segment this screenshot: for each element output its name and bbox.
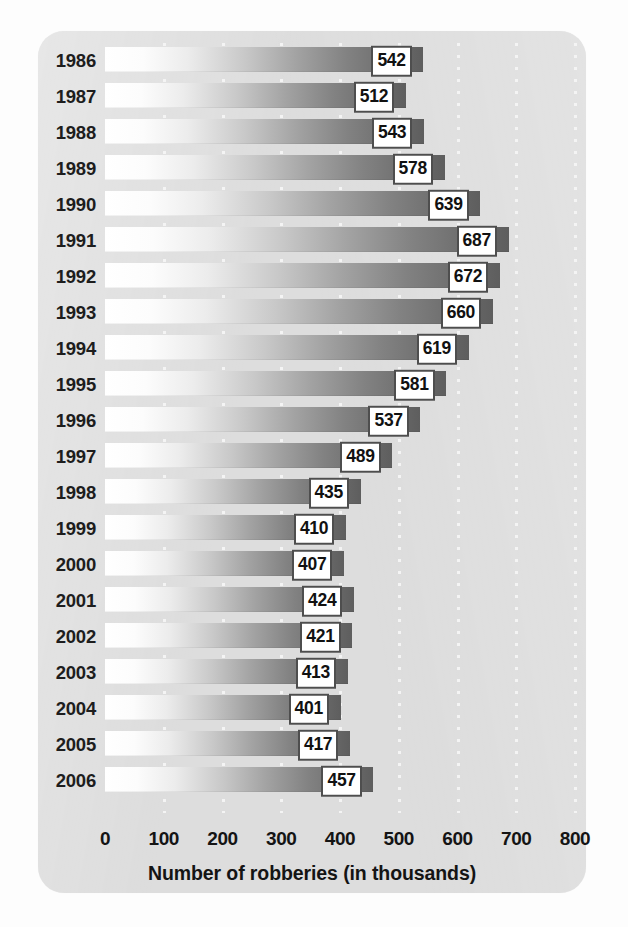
value-label-1990: 639 [428, 190, 468, 221]
robbery-bar-chart-figure: 1986542198751219885431989578199063919916… [0, 0, 628, 927]
value-label-2002: 421 [300, 622, 340, 653]
value-label-2003: 413 [296, 658, 336, 689]
year-label-2002: 2002 [56, 626, 96, 648]
year-label-2001: 2001 [56, 590, 96, 612]
year-label-1999: 1999 [56, 518, 96, 540]
year-label-2005: 2005 [56, 734, 96, 756]
value-label-1998: 435 [309, 478, 349, 509]
bar-row[interactable]: 1988543 [105, 115, 575, 151]
bar-row[interactable]: 2002421 [105, 619, 575, 655]
bar-1990[interactable] [105, 191, 480, 216]
value-label-1991: 687 [457, 226, 497, 257]
value-label-1989: 578 [393, 154, 433, 185]
bar-row[interactable]: 1992672 [105, 259, 575, 295]
value-label-1993: 660 [441, 298, 481, 329]
value-label-1987: 512 [354, 82, 394, 113]
x-tick-400: 400 [325, 828, 356, 850]
year-label-2004: 2004 [56, 698, 96, 720]
value-label-2004: 401 [289, 694, 329, 725]
value-label-2006: 457 [321, 766, 361, 797]
bar-row[interactable]: 1993660 [105, 295, 575, 331]
x-tick-300: 300 [266, 828, 297, 850]
bar-row[interactable]: 2003413 [105, 655, 575, 691]
bar-row[interactable]: 1995581 [105, 367, 575, 403]
value-label-2005: 417 [298, 730, 338, 761]
x-tick-500: 500 [383, 828, 414, 850]
bar-row[interactable]: 2005417 [105, 727, 575, 763]
year-label-2003: 2003 [56, 662, 96, 684]
year-label-1986: 1986 [56, 50, 96, 72]
value-label-2001: 424 [302, 586, 342, 617]
x-tick-800: 800 [560, 828, 591, 850]
value-label-1996: 537 [368, 406, 408, 437]
year-label-1994: 1994 [56, 338, 96, 360]
year-label-1996: 1996 [56, 410, 96, 432]
value-label-1999: 410 [294, 514, 334, 545]
bar-1991[interactable] [105, 227, 509, 252]
year-label-1991: 1991 [56, 230, 96, 252]
x-tick-0: 0 [100, 828, 110, 850]
bar-1994[interactable] [105, 335, 469, 360]
year-label-2000: 2000 [56, 554, 96, 576]
bar-row[interactable]: 1989578 [105, 151, 575, 187]
x-tick-700: 700 [501, 828, 532, 850]
x-tick-200: 200 [207, 828, 238, 850]
x-tick-100: 100 [148, 828, 179, 850]
bar-1993[interactable] [105, 299, 493, 324]
year-label-1987: 1987 [56, 86, 96, 108]
x-axis-label: Number of robberies (in thousands) [38, 862, 586, 885]
year-label-1993: 1993 [56, 302, 96, 324]
bar-row[interactable]: 1998435 [105, 475, 575, 511]
bar-row[interactable]: 1996537 [105, 403, 575, 439]
bar-row[interactable]: 1987512 [105, 79, 575, 115]
value-label-1997: 489 [340, 442, 380, 473]
x-tick-600: 600 [442, 828, 473, 850]
bar-row[interactable]: 1986542 [105, 43, 575, 79]
bar-row[interactable]: 1994619 [105, 331, 575, 367]
plot-area: 1986542198751219885431989578199063919916… [105, 43, 575, 813]
bar-row[interactable]: 2004401 [105, 691, 575, 727]
bar-row[interactable]: 2001424 [105, 583, 575, 619]
bar-row[interactable]: 1990639 [105, 187, 575, 223]
value-label-1995: 581 [394, 370, 434, 401]
value-label-1992: 672 [448, 262, 488, 293]
value-label-2000: 407 [292, 550, 332, 581]
value-label-1986: 542 [371, 46, 411, 77]
bar-row[interactable]: 1999410 [105, 511, 575, 547]
bar-row[interactable]: 1991687 [105, 223, 575, 259]
year-label-1992: 1992 [56, 266, 96, 288]
year-label-1997: 1997 [56, 446, 96, 468]
year-label-1998: 1998 [56, 482, 96, 504]
value-label-1988: 543 [372, 118, 412, 149]
year-label-1988: 1988 [56, 122, 96, 144]
bar-row[interactable]: 2000407 [105, 547, 575, 583]
year-label-1990: 1990 [56, 194, 96, 216]
bar-rows-group: 1986542198751219885431989578199063919916… [105, 43, 575, 799]
year-label-2006: 2006 [56, 770, 96, 792]
value-label-1994: 619 [417, 334, 457, 365]
year-label-1995: 1995 [56, 374, 96, 396]
bar-row[interactable]: 1997489 [105, 439, 575, 475]
year-label-1989: 1989 [56, 158, 96, 180]
bar-1992[interactable] [105, 263, 500, 288]
x-axis-ticks: 0100200300400500600700800 [105, 828, 575, 856]
bar-row[interactable]: 2006457 [105, 763, 575, 799]
